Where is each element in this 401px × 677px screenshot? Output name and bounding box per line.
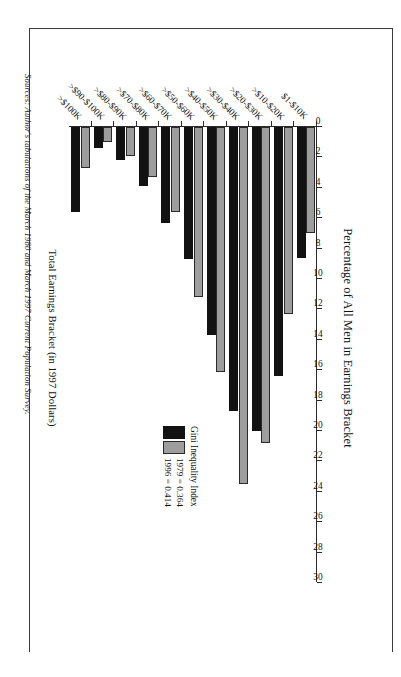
value-tick xyxy=(317,126,322,127)
bar-1979 xyxy=(239,127,248,484)
value-tick xyxy=(317,521,322,522)
bar-1979 xyxy=(261,127,270,443)
legend-label-1979: 1979 = 0.364 xyxy=(174,458,185,507)
category-tick xyxy=(113,121,114,126)
value-tick xyxy=(317,582,322,583)
value-tick-label: 22 xyxy=(313,451,322,460)
value-tick-label: 24 xyxy=(313,482,322,491)
value-tick-label: 10 xyxy=(313,269,322,278)
category-tick xyxy=(158,121,159,126)
value-tick-label: 18 xyxy=(313,391,322,400)
bar-1996 xyxy=(184,127,193,259)
legend-label-1996: 1996 = 0.414 xyxy=(162,458,173,507)
bar-1979 xyxy=(306,127,315,233)
value-tick-label: 8 xyxy=(316,239,321,248)
bar-1996 xyxy=(116,127,125,160)
bar-1979 xyxy=(284,127,293,314)
category-tick xyxy=(293,121,294,126)
legend: Gini Inequality Index 1979 = 0.364 1996 … xyxy=(162,426,199,507)
bar-1979 xyxy=(216,127,225,372)
bar-1996 xyxy=(139,127,148,186)
legend-swatch-1979 xyxy=(163,441,185,454)
bar-1996 xyxy=(161,127,170,223)
value-tick-label: 20 xyxy=(313,421,322,430)
value-tick-label: 14 xyxy=(313,330,322,339)
frame-rule-right xyxy=(392,28,393,652)
frame-rule-top xyxy=(29,28,393,29)
bar-1996 xyxy=(274,127,283,376)
value-tick xyxy=(317,278,322,279)
value-tick-label: 4 xyxy=(316,178,321,187)
bar-1996 xyxy=(297,127,306,258)
value-tick-label: 12 xyxy=(313,299,322,308)
bar-1979 xyxy=(171,127,180,212)
bar-1979 xyxy=(103,127,112,142)
value-tick xyxy=(317,369,322,370)
bar-1979 xyxy=(126,127,135,156)
value-tick-label: 26 xyxy=(313,512,322,521)
bar-1979 xyxy=(81,127,90,168)
category-axis-title: Total Earnings Bracket (in 1997 Dollars) xyxy=(47,38,58,638)
category-tick xyxy=(248,121,249,126)
category-tick xyxy=(181,121,182,126)
category-tick xyxy=(271,121,272,126)
value-tick xyxy=(317,217,322,218)
bar-1996 xyxy=(252,127,261,431)
bar-1979 xyxy=(194,127,203,297)
source-note: Sources: Author's tabulations of the Mar… xyxy=(23,74,33,524)
category-tick xyxy=(316,121,317,126)
value-tick-label: 28 xyxy=(313,543,322,552)
chart-title: Percentage of All Men in Earnings Bracke… xyxy=(340,38,355,638)
value-tick-label: 2 xyxy=(316,147,321,156)
value-tick-label: 6 xyxy=(316,208,321,217)
legend-title: Gini Inequality Index xyxy=(188,426,199,507)
bar-1996 xyxy=(71,127,80,212)
bar-1979 xyxy=(148,127,157,177)
bar-1996 xyxy=(94,127,103,148)
value-tick-label: 16 xyxy=(313,360,322,369)
value-tick xyxy=(317,430,322,431)
value-tick-label: 30 xyxy=(313,573,322,582)
category-tick xyxy=(91,121,92,126)
bar-1996 xyxy=(229,127,238,411)
plot-area: 024681012141618202224262830 $1-$10K>$10-… xyxy=(69,126,317,582)
category-tick xyxy=(136,121,137,126)
value-tick xyxy=(317,308,322,309)
value-tick xyxy=(317,156,322,157)
category-tick xyxy=(226,121,227,126)
chart-stage: Percentage of All Men in Earnings Bracke… xyxy=(45,38,357,638)
category-tick xyxy=(203,121,204,126)
legend-swatch-1996 xyxy=(163,426,185,439)
value-tick xyxy=(317,460,322,461)
bar-1996 xyxy=(207,127,216,335)
